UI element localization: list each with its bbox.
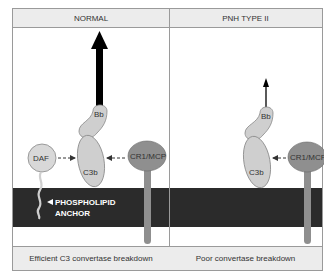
cr1-label: CR1/MCP: [130, 152, 166, 161]
svg-text:PHOSPHOLIPID: PHOSPHOLIPID: [55, 198, 116, 207]
cr1-label-pnh: CR1/MCP: [290, 153, 324, 162]
bb-release-arrow-strong: [91, 31, 108, 109]
cr1-mcp-protein-pnh: CR1/MCP: [288, 142, 324, 244]
svg-text:ANCHOR: ANCHOR: [55, 209, 90, 218]
diagram-graphics: Bb C3b DAF CR1/MCP PHOSPHOLIPID ANCHOR: [13, 9, 324, 272]
bb-release-arrow-weak: [263, 78, 269, 108]
diagram-frame: NORMAL PNH TYPE II Bb C3b DAF: [12, 8, 323, 271]
caption-normal: Efficient C3 convertase breakdown: [13, 246, 169, 270]
c3-convertase-pnh: Bb C3b: [240, 107, 275, 190]
c3b-label: C3b: [83, 168, 98, 177]
cr1-mcp-protein-normal: CR1/MCP: [128, 141, 166, 244]
bb-label: Bb: [94, 110, 104, 119]
c3b-label-pnh: C3b: [249, 168, 264, 177]
bb-label-pnh: Bb: [261, 112, 271, 121]
daf-label: DAF: [33, 154, 49, 163]
phospholipid-anchor-label: PHOSPHOLIPID ANCHOR: [47, 198, 116, 218]
daf-protein: DAF: [28, 144, 56, 219]
caption-pnh: Poor convertase breakdown: [169, 246, 322, 270]
c3-convertase-normal: Bb C3b: [74, 105, 109, 189]
